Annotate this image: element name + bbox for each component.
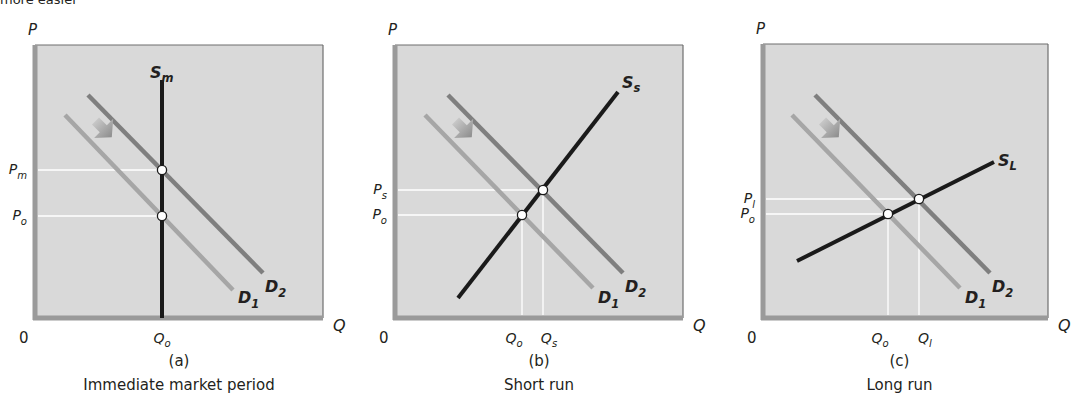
equilibrium-point bbox=[517, 210, 526, 219]
panel-label: (b) bbox=[528, 352, 549, 370]
quantity-tick-label: Ql bbox=[918, 330, 932, 349]
plot-area bbox=[35, 45, 323, 318]
price-tick-label: Ps bbox=[373, 181, 387, 201]
quantity-tick-label: Qo bbox=[505, 330, 522, 349]
panel-caption: Long run bbox=[866, 376, 932, 394]
price-tick-label: Po bbox=[12, 207, 27, 227]
y-axis-label: P bbox=[28, 21, 38, 39]
equilibrium-point bbox=[538, 185, 547, 194]
quantity-tick-label: Qo bbox=[871, 330, 888, 349]
panel-caption: Immediate market period bbox=[83, 376, 274, 394]
equilibrium-point bbox=[914, 194, 923, 203]
figure-stage: more easier SmD1D2PQ0PmPoQo(a)Immediate … bbox=[0, 0, 1078, 413]
y-axis-label: P bbox=[388, 21, 398, 39]
price-tick-label: Po bbox=[372, 206, 387, 226]
equilibrium-point bbox=[157, 211, 166, 220]
origin-label: 0 bbox=[19, 329, 29, 347]
header-fragment: more easier bbox=[0, 0, 78, 7]
panel-label: (c) bbox=[890, 352, 910, 370]
panel-caption: Short run bbox=[504, 376, 574, 394]
origin-label: 0 bbox=[379, 329, 389, 347]
x-axis-label: Q bbox=[693, 316, 706, 335]
origin-label: 0 bbox=[747, 329, 757, 347]
equilibrium-point bbox=[157, 165, 166, 174]
x-axis-label: Q bbox=[333, 316, 346, 335]
panels: SmD1D2PQ0PmPoQo(a)Immediate market perio… bbox=[9, 20, 1071, 394]
quantity-tick-label: Qo bbox=[153, 330, 170, 349]
panel-b: SsD1D2PQ0PsPoQoQs(b)Short run bbox=[372, 21, 705, 394]
panel-a: SmD1D2PQ0PmPoQo(a)Immediate market perio… bbox=[9, 21, 346, 394]
x-axis-label: Q bbox=[1058, 316, 1071, 335]
quantity-tick-label: Qs bbox=[541, 330, 558, 349]
panel-label: (a) bbox=[169, 352, 190, 370]
panel-c: SLD1D2PQ0PlPoQoQl(c)Long run bbox=[740, 20, 1070, 394]
y-axis-label: P bbox=[756, 20, 766, 38]
price-tick-label: Pm bbox=[9, 161, 27, 181]
equilibrium-point bbox=[883, 209, 892, 218]
